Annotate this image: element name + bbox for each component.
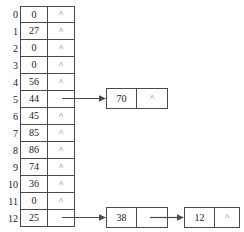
bucket-pointer-2: ^ bbox=[48, 40, 74, 56]
bucket-pointer-1: ^ bbox=[48, 23, 74, 39]
bucket-index-8: 8 bbox=[0, 142, 20, 159]
bucket-pointer-10: ^ bbox=[48, 176, 74, 192]
bucket-pointer-7: ^ bbox=[48, 125, 74, 141]
bucket-index-3: 3 bbox=[0, 57, 20, 74]
bucket-pointer-3: ^ bbox=[48, 57, 74, 73]
bucket-index-9: 9 bbox=[0, 159, 20, 176]
table-row: 6 45 ^ bbox=[0, 108, 78, 125]
bucket-pointer-0: ^ bbox=[48, 7, 74, 22]
bucket-pointer-12 bbox=[48, 210, 74, 226]
table-row: 5 44 bbox=[0, 91, 78, 108]
table-row: 0 0 ^ bbox=[0, 6, 78, 23]
hash-table: 0 0 ^ 1 27 ^ 2 0 ^ 3 0 ^ bbox=[0, 0, 78, 232]
bucket-pointer-8: ^ bbox=[48, 142, 74, 158]
bucket-value-6: 45 bbox=[21, 108, 48, 124]
bucket-value-12: 25 bbox=[21, 210, 48, 226]
bucket-pointer-11: ^ bbox=[48, 193, 74, 209]
table-row: 3 0 ^ bbox=[0, 57, 78, 74]
chain-node-12: 12 ^ bbox=[184, 207, 240, 228]
bucket-pointer-5 bbox=[48, 91, 74, 107]
table-row: 4 56 ^ bbox=[0, 74, 78, 91]
bucket-cells-4: 56 ^ bbox=[20, 74, 75, 91]
bucket-cells-3: 0 ^ bbox=[20, 57, 75, 74]
bucket-value-5: 44 bbox=[21, 91, 48, 107]
hash-table-diagram: 0 0 ^ 1 27 ^ 2 0 ^ 3 0 ^ bbox=[0, 0, 244, 232]
chain-node-pointer-12: ^ bbox=[215, 208, 239, 227]
bucket-value-11: 0 bbox=[21, 193, 48, 209]
bucket-cells-10: 36 ^ bbox=[20, 176, 75, 193]
bucket-cells-12: 25 bbox=[20, 210, 75, 227]
bucket-value-10: 36 bbox=[21, 176, 48, 192]
table-row: 12 25 bbox=[0, 210, 78, 227]
bucket-value-8: 86 bbox=[21, 142, 48, 158]
bucket-cells-5: 44 bbox=[20, 91, 75, 108]
bucket-index-6: 6 bbox=[0, 108, 20, 125]
bucket-index-7: 7 bbox=[0, 125, 20, 142]
chain-node-pointer-38 bbox=[137, 208, 167, 227]
table-row: 1 27 ^ bbox=[0, 23, 78, 40]
bucket-pointer-4: ^ bbox=[48, 74, 74, 90]
bucket-value-9: 74 bbox=[21, 159, 48, 175]
table-row: 2 0 ^ bbox=[0, 40, 78, 57]
bucket-cells-8: 86 ^ bbox=[20, 142, 75, 159]
bucket-value-1: 27 bbox=[21, 23, 48, 39]
bucket-cells-9: 74 ^ bbox=[20, 159, 75, 176]
chain-node-38: 38 bbox=[106, 207, 168, 228]
chain-node-value-38: 38 bbox=[107, 208, 137, 227]
bucket-value-7: 85 bbox=[21, 125, 48, 141]
bucket-index-11: 11 bbox=[0, 193, 20, 210]
bucket-index-10: 10 bbox=[0, 176, 20, 193]
bucket-cells-11: 0 ^ bbox=[20, 193, 75, 210]
chain-node-70: 70 ^ bbox=[106, 88, 168, 109]
bucket-index-4: 4 bbox=[0, 74, 20, 91]
chain-node-pointer-70: ^ bbox=[137, 89, 167, 108]
bucket-cells-2: 0 ^ bbox=[20, 40, 75, 57]
bucket-value-4: 56 bbox=[21, 74, 48, 90]
bucket-value-2: 0 bbox=[21, 40, 48, 56]
bucket-value-3: 0 bbox=[21, 57, 48, 73]
table-row: 11 0 ^ bbox=[0, 193, 78, 210]
bucket-pointer-6: ^ bbox=[48, 108, 74, 124]
bucket-index-1: 1 bbox=[0, 23, 20, 40]
bucket-pointer-9: ^ bbox=[48, 159, 74, 175]
bucket-cells-7: 85 ^ bbox=[20, 125, 75, 142]
bucket-index-0: 0 bbox=[0, 6, 20, 23]
bucket-cells-1: 27 ^ bbox=[20, 23, 75, 40]
table-row: 7 85 ^ bbox=[0, 125, 78, 142]
chain-node-value-70: 70 bbox=[107, 89, 137, 108]
table-row: 9 74 ^ bbox=[0, 159, 78, 176]
bucket-cells-0: 0 ^ bbox=[20, 6, 75, 23]
bucket-index-2: 2 bbox=[0, 40, 20, 57]
table-row: 8 86 ^ bbox=[0, 142, 78, 159]
bucket-index-5: 5 bbox=[0, 91, 20, 108]
chain-node-value-12: 12 bbox=[185, 208, 215, 227]
bucket-cells-6: 45 ^ bbox=[20, 108, 75, 125]
bucket-value-0: 0 bbox=[21, 7, 48, 22]
bucket-index-12: 12 bbox=[0, 210, 20, 227]
table-row: 10 36 ^ bbox=[0, 176, 78, 193]
